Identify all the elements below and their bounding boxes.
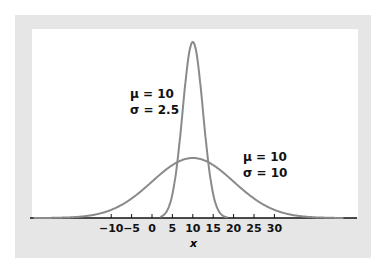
normal-curves-chart [0, 0, 387, 277]
x-tick-label: 20 [226, 222, 241, 235]
narrow-sigma-label: σ = 2.5 [130, 102, 179, 118]
narrow-normal-curve [160, 42, 227, 218]
x-tick-label: 30 [267, 222, 282, 235]
x-tick-label: −5 [123, 222, 140, 235]
x-tick-label: 10 [185, 222, 200, 235]
x-axis-label: x [190, 237, 197, 250]
x-tick-label: 5 [169, 222, 177, 235]
narrow-mu-label: μ = 10 [130, 86, 179, 102]
wide-mu-label: μ = 10 [243, 149, 287, 165]
x-tick-label: 15 [206, 222, 221, 235]
x-tick-label: −10 [99, 222, 124, 235]
x-tick-label: 25 [246, 222, 261, 235]
wide-sigma-label: σ = 10 [243, 165, 287, 181]
x-tick-label: 0 [148, 222, 156, 235]
wide-curve-label: μ = 10 σ = 10 [243, 149, 287, 181]
wide-normal-curve [34, 158, 344, 218]
narrow-curve-label: μ = 10 σ = 2.5 [130, 86, 179, 118]
